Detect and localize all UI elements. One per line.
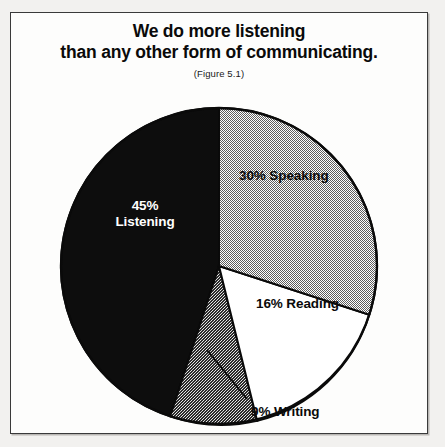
pie-label-speaking: 30% Speaking (239, 168, 329, 184)
pie-label-reading: 16% Reading (256, 296, 339, 312)
pie-label-listening: 45% Listening (99, 198, 191, 230)
figure-frame: We do more listening than any other form… (10, 12, 428, 434)
pie-chart-svg (11, 13, 429, 435)
pie-label-listening-name: Listening (99, 214, 191, 230)
pie-label-listening-value: 45% (99, 198, 191, 214)
pie-label-writing: 9% Writing (251, 404, 320, 420)
pie-chart: 45% Listening 30% Speaking 16% Reading 9… (11, 13, 429, 435)
